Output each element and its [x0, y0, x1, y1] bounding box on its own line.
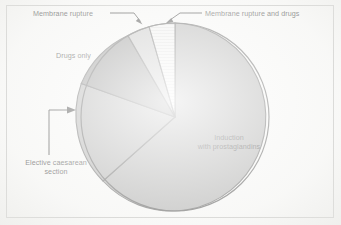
label-induction-line2: with prostaglandins	[187, 142, 271, 151]
pie-chart	[0, 0, 341, 225]
arrowhead-icon	[136, 18, 143, 24]
callout-membrane-rupture-and-drugs	[166, 13, 203, 24]
label-elective-caesarean-line1: Elective caesarean	[13, 158, 99, 167]
pie-chart-screenshot: Membrane rupture Membrane rupture and dr…	[0, 0, 341, 225]
label-drugs-only: Drugs only	[56, 51, 91, 60]
arrowhead-icon	[67, 107, 76, 114]
label-elective-caesarean-section: Elective caesarean section	[13, 158, 99, 176]
label-induction-line1: Induction	[187, 133, 271, 142]
label-induction-with-prostaglandins: Induction with prostaglandins	[187, 133, 271, 151]
label-elective-caesarean-line2: section	[13, 167, 99, 176]
label-membrane-rupture-and-drugs: Membrane rupture and drugs	[205, 9, 299, 18]
callout-elective-caesarean-section	[49, 107, 76, 155]
label-membrane-rupture: Membrane rupture	[33, 9, 93, 18]
callout-membrane-rupture	[110, 13, 143, 25]
